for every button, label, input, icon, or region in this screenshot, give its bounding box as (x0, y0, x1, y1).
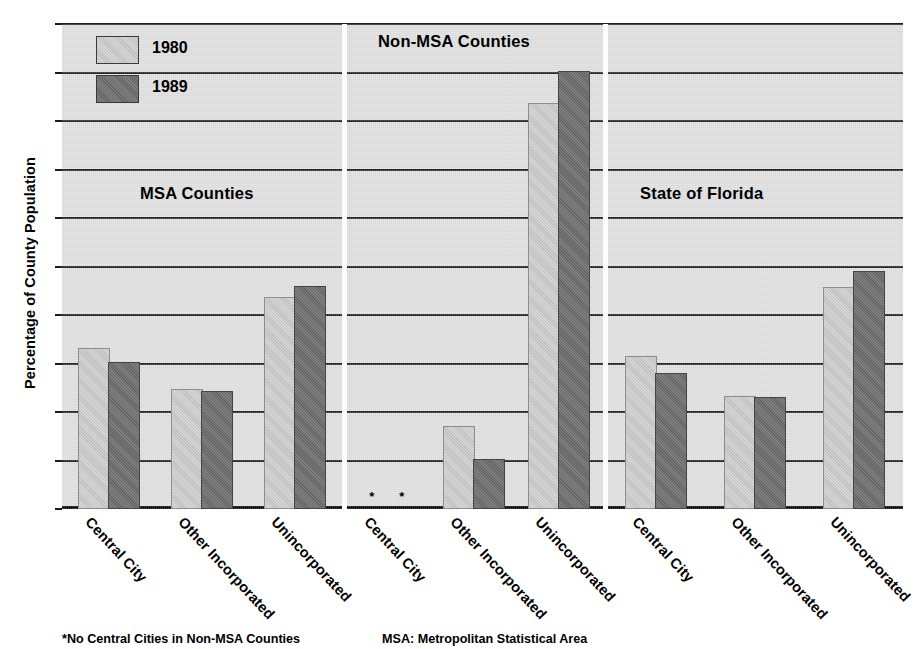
legend-swatch-1980 (96, 36, 139, 64)
legend-label-1989: 1989 (152, 78, 188, 96)
bar (443, 426, 475, 509)
bar (264, 297, 296, 509)
bar (853, 271, 885, 509)
bar (171, 389, 203, 509)
bar (108, 362, 140, 510)
bar (473, 459, 505, 509)
gridline-90 (62, 72, 903, 74)
gridline-40 (62, 314, 903, 316)
bar (294, 286, 326, 509)
gridline-80 (62, 120, 903, 122)
bar (724, 396, 756, 509)
footnote-no-central-cities: *No Central Cities in Non-MSA Counties (62, 632, 300, 646)
bar (78, 348, 110, 509)
bar (823, 287, 855, 509)
x-tick-label: Other Incorporated (175, 514, 277, 622)
y-tick-mark-10 (55, 460, 62, 462)
bar (528, 103, 560, 509)
missing-marker-1980: * (369, 490, 374, 503)
y-tick-mark-50 (55, 266, 62, 268)
panel-title-non-msa: Non-MSA Counties (378, 32, 530, 51)
x-tick-label: Other Incorporated (728, 514, 830, 622)
y-tick-mark-60 (55, 217, 62, 219)
panel-title-msa: MSA Counties (140, 184, 254, 203)
panel-separator-1 (342, 24, 347, 509)
x-tick-label: Central City (629, 514, 697, 585)
plot-area: ** 1980 1989 MSA Counties Non-MSA Counti… (62, 24, 903, 509)
y-tick-mark-40 (55, 314, 62, 316)
y-tick-mark-80 (55, 120, 62, 122)
y-tick-mark-70 (55, 169, 62, 171)
legend-swatch-1989 (96, 75, 139, 103)
y-tick-mark-20 (55, 411, 62, 413)
gridline-100 (62, 23, 903, 25)
panel-separator-2 (603, 24, 608, 509)
gridline-30 (62, 363, 903, 365)
bar (655, 373, 687, 509)
y-tick-mark-90 (55, 72, 62, 74)
bar (558, 71, 590, 510)
bar (625, 356, 657, 509)
missing-marker-1989: * (399, 490, 404, 503)
gridline-60 (62, 217, 903, 219)
x-tick-label: Other Incorporated (447, 514, 549, 622)
y-tick-mark-30 (55, 363, 62, 365)
bar (754, 397, 786, 509)
y-tick-mark-0 (55, 508, 62, 510)
bar (201, 391, 233, 509)
x-tick-label: Central City (361, 514, 429, 585)
y-axis-title: Percentage of County Population (22, 73, 38, 473)
legend-label-1980: 1980 (152, 39, 188, 57)
x-tick-label: Unincorporated (828, 514, 914, 605)
x-tick-label: Central City (83, 514, 151, 585)
panel-title-state-of-florida: State of Florida (640, 184, 763, 203)
x-tick-label: Unincorporated (532, 514, 618, 605)
y-tick-mark-100 (55, 23, 62, 25)
footnote-msa-definition: MSA: Metropolitan Statistical Area (382, 632, 587, 646)
gridline-50 (62, 266, 903, 268)
x-tick-label: Unincorporated (268, 514, 354, 605)
gridline-70 (62, 169, 903, 171)
